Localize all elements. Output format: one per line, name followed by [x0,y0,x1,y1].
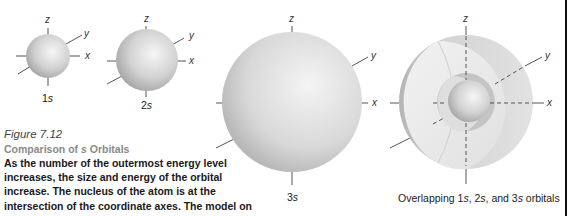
axis-label-z-1s: z [45,15,50,25]
axis-label-y-3s: y [371,51,376,61]
axis-label-x-1s: x [85,51,90,61]
figure-body-text: As the number of the outermost energy le… [4,156,264,216]
figure-title: Comparison of s Orbitals [4,143,264,156]
axis-label-z-overlap: z [463,14,468,24]
overlap-caption: Overlapping 1s, 2s, and 3s orbitals [398,192,560,204]
orbital-label-3s: 3s [287,192,298,203]
axis-label-y-2s: y [189,31,194,41]
orbital-label-1s: 1s [42,93,53,104]
axis-label-y-1s: y [84,29,89,39]
axis-label-x-overlap: x [547,98,552,108]
orbital-1s [16,28,82,86]
axis-label-z-3s: z [289,14,294,24]
figure-number: Figure 7.12 [4,128,264,141]
page-rule [565,0,567,216]
axis-label-x-3s: x [372,98,377,108]
figure-7-12: z y x 1s z y x 2s z y x 3s z y x Overlap… [0,0,570,216]
axis-label-x-2s: x [189,56,194,66]
orbital-overlap-cutaway [390,26,544,184]
orbital-2s [107,26,186,97]
figure-caption: Figure 7.12 Comparison of s Orbitals As … [4,128,264,216]
orbital-label-2s: 2s [141,100,152,111]
axis-label-z-2s: z [144,14,149,24]
axis-label-y-overlap: y [545,51,550,61]
